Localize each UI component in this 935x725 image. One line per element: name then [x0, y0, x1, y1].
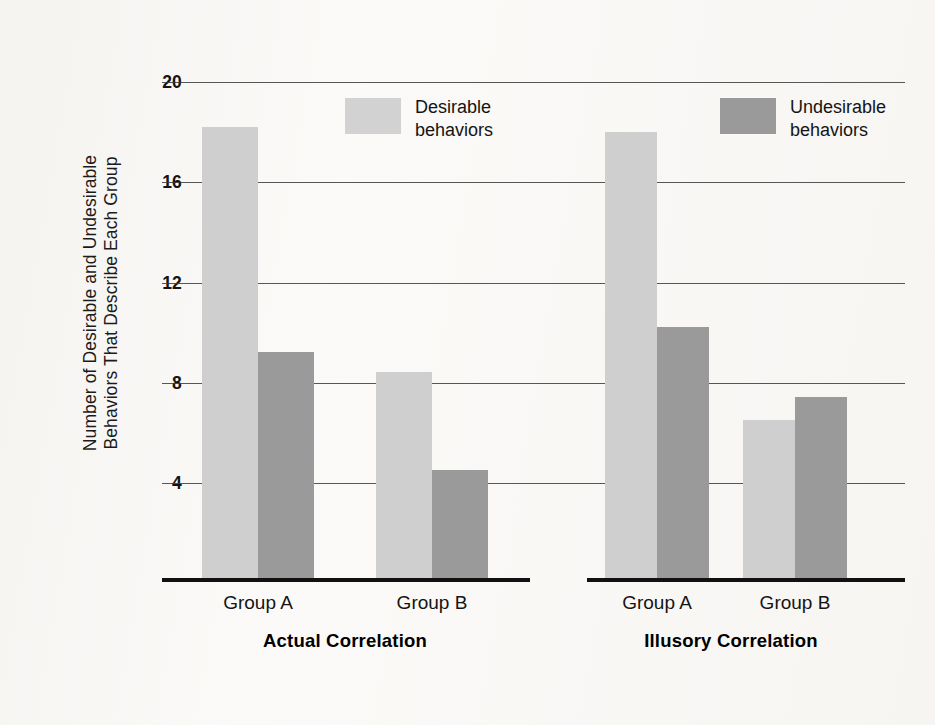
panel-illusory-correlation: Group A Group B Illusory Correlation Und…	[595, 0, 905, 725]
panel-title-illusory-correlation: Illusory Correlation	[644, 630, 818, 652]
y-tick-4: 4	[142, 473, 182, 494]
x-label-illusory-group-b: Group B	[760, 592, 831, 614]
bar-actual-groupb-undesirable	[432, 470, 488, 578]
x-axis-line-illusory	[587, 578, 905, 582]
x-label-actual-group-b: Group B	[397, 592, 468, 614]
legend-label-undesirable-line-1: Undesirable	[790, 96, 886, 119]
legend-label-undesirable: Undesirable behaviors	[790, 96, 886, 142]
plot-stage: Number of Desirable and Undesirable Beha…	[0, 0, 935, 725]
bar-illusory-groupb-undesirable	[795, 397, 847, 578]
legend-swatch-desirable-icon	[345, 98, 401, 134]
legend-desirable: Desirable behaviors	[345, 96, 493, 142]
x-label-actual-group-a: Group A	[223, 592, 293, 614]
bar-illusory-groupa-desirable	[605, 132, 657, 578]
y-axis-title-line-2: Behaviors That Describe Each Group	[101, 157, 122, 450]
y-tick-8: 8	[142, 373, 182, 394]
bar-illusory-groupa-undesirable	[657, 327, 709, 578]
y-axis-tick-labels: 20 16 12 8 4	[142, 0, 182, 725]
x-label-illusory-group-a: Group A	[622, 592, 692, 614]
y-tick-12: 12	[142, 273, 182, 294]
y-tick-16: 16	[142, 172, 182, 193]
legend-swatch-undesirable-icon	[720, 98, 776, 134]
bar-actual-groupa-desirable	[202, 127, 258, 578]
bar-actual-groupa-undesirable	[258, 352, 314, 578]
y-axis-title: Number of Desirable and Undesirable Beha…	[78, 33, 124, 573]
y-tick-20: 20	[142, 72, 182, 93]
legend-label-desirable: Desirable behaviors	[415, 96, 493, 142]
y-axis-title-line-1: Number of Desirable and Undesirable	[80, 155, 101, 451]
legend-label-desirable-line-1: Desirable	[415, 96, 493, 119]
panel-actual-correlation: Group A Group B Actual Correlation Desir…	[190, 0, 535, 725]
legend-label-desirable-line-2: behaviors	[415, 119, 493, 142]
x-axis-line-actual	[162, 578, 530, 582]
legend-undesirable: Undesirable behaviors	[720, 96, 886, 142]
illusory-correlation-figure: Number of Desirable and Undesirable Beha…	[0, 0, 935, 725]
bar-actual-groupb-desirable	[376, 372, 432, 578]
bar-illusory-groupb-desirable	[743, 420, 795, 578]
legend-label-undesirable-line-2: behaviors	[790, 119, 886, 142]
panel-title-actual-correlation: Actual Correlation	[263, 630, 427, 652]
